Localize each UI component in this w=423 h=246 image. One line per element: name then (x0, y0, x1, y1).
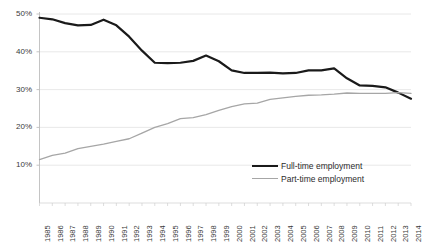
x-axis-tick-label: 2005 (299, 225, 308, 242)
x-axis-tick-label: 2008 (337, 225, 346, 242)
gridlines (40, 14, 412, 165)
x-axis-tick-label: 1992 (132, 225, 141, 242)
x-axis-tick-label: 1995 (171, 225, 180, 242)
x-axis-tick-label: 1985 (43, 225, 52, 242)
chart-legend: Full-time employment Part-time employmen… (252, 159, 412, 185)
x-axis-tick-label: 2000 (235, 225, 244, 242)
legend-label-full-time: Full-time employment (281, 161, 362, 171)
x-axis-tick-label: 2009 (350, 225, 359, 242)
x-axis-tick-label: 2010 (363, 225, 372, 242)
legend-item-full-time: Full-time employment (252, 159, 412, 172)
x-axis-tick-label: 2007 (325, 225, 334, 242)
x-axis-tick-label: 1986 (56, 225, 65, 242)
x-axis-tick-label: 2012 (389, 225, 398, 242)
x-axis-tick-label: 1993 (145, 225, 154, 242)
legend-swatch-part-time-icon (252, 178, 278, 179)
y-axis-tick-label: 10% (4, 160, 32, 169)
x-axis-tick-label: 2003 (273, 225, 282, 242)
x-axis-tick-label: 2014 (414, 225, 423, 242)
y-axis-tick-label: 40% (4, 47, 32, 56)
x-axis-tick-label: 1998 (209, 225, 218, 242)
legend-item-part-time: Part-time employment (252, 172, 412, 185)
y-axis-tick-label: 50% (4, 9, 32, 18)
x-axis-tick-label: 1988 (81, 225, 90, 242)
legend-swatch-full-time-icon (252, 165, 278, 167)
x-axis-tick-label: 1989 (94, 225, 103, 242)
x-axis-tick-label: 2006 (312, 225, 321, 242)
x-axis-tick-label: 2002 (260, 225, 269, 242)
x-axis-tick-label: 2001 (248, 225, 257, 242)
x-axis-tick-label: 2004 (286, 225, 295, 242)
x-axis-tick-label: 1994 (158, 225, 167, 242)
x-axis-tick-label: 1999 (222, 225, 231, 242)
x-axis-tick-label: 1990 (107, 225, 116, 242)
x-axis-tick-label: 2013 (401, 225, 410, 242)
series-lines (40, 18, 412, 160)
y-axis-tick-label: 30% (4, 85, 32, 94)
x-axis-tick-label: 1987 (68, 225, 77, 242)
x-axis-tick-label: 2011 (376, 226, 385, 242)
x-axis-tick-label: 1997 (196, 225, 205, 242)
series-line (40, 93, 412, 160)
series-line (40, 18, 412, 99)
legend-label-part-time: Part-time employment (281, 174, 364, 184)
y-axis-tick-label: 20% (4, 122, 32, 131)
x-axis-tick-label: 1996 (184, 225, 193, 242)
x-axis-tick-label: 1991 (120, 225, 129, 242)
